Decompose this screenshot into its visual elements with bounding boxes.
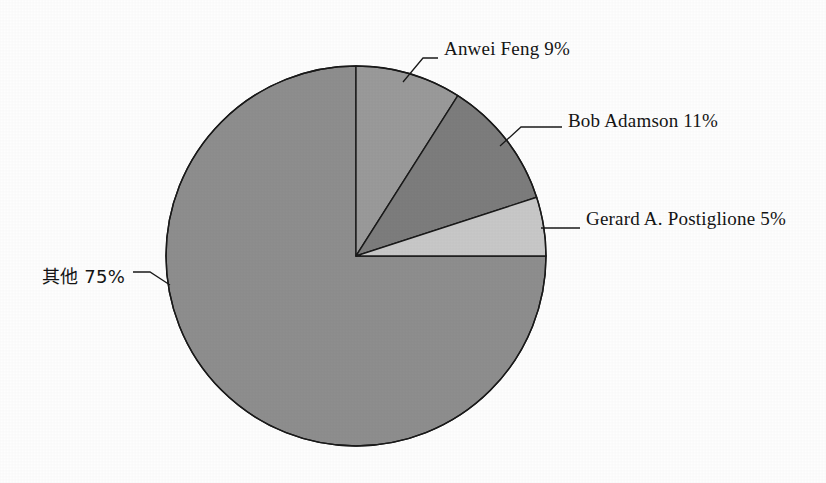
pie-label-anwei-feng: Anwei Feng 9% bbox=[444, 38, 570, 60]
pie-chart-canvas bbox=[0, 0, 826, 483]
pie-label-gerard-postiglione: Gerard A. Postiglione 5% bbox=[586, 208, 786, 230]
pie-chart-figure: Anwei Feng 9% Bob Adamson 11% Gerard A. … bbox=[0, 0, 826, 483]
pie-label-other: 其他 75% bbox=[42, 262, 125, 288]
pie-label-bob-adamson: Bob Adamson 11% bbox=[568, 110, 718, 132]
leader-line-other bbox=[133, 272, 170, 285]
